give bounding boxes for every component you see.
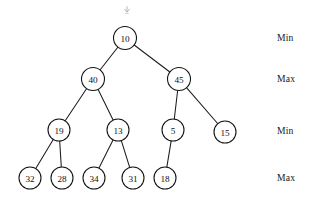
node-label: 31: [128, 174, 138, 184]
level-label-lvl0: Min: [277, 32, 294, 43]
tree-edge: [167, 140, 172, 167]
tree-edge: [174, 90, 177, 119]
tree-node[interactable]: 10: [114, 27, 137, 50]
tree-edge: [121, 140, 130, 168]
tree-edge: [99, 139, 114, 168]
tree-edge: [134, 45, 170, 73]
tree-edge: [65, 88, 87, 121]
tree-edge: [186, 87, 218, 124]
node-label: 5: [171, 126, 176, 136]
tree-node[interactable]: 40: [82, 68, 105, 91]
tree-node[interactable]: 13: [107, 119, 129, 141]
tree-edge: [60, 141, 62, 168]
tree-node[interactable]: 15: [214, 121, 236, 143]
tree-node[interactable]: 18: [154, 167, 176, 189]
tree-edge: [98, 89, 113, 121]
node-label: 18: [160, 174, 170, 184]
tree-edge: [35, 139, 53, 169]
level-label-lvl3: Max: [277, 172, 295, 183]
tree-node[interactable]: 5: [162, 119, 184, 141]
node-label: 19: [54, 126, 64, 136]
tree-edge: [100, 47, 118, 71]
tree-node[interactable]: 34: [83, 167, 105, 189]
node-label: 45: [174, 75, 184, 85]
node-label: 15: [220, 128, 230, 138]
node-label: 10: [120, 34, 130, 44]
node-label: 32: [25, 174, 35, 184]
tree-node[interactable]: 31: [122, 167, 144, 189]
node-label: 34: [89, 174, 99, 184]
tree-node[interactable]: 19: [48, 119, 70, 141]
node-label: 13: [113, 126, 123, 136]
tree-node[interactable]: 28: [51, 167, 73, 189]
tree-node[interactable]: 32: [19, 167, 41, 189]
node-label: 28: [57, 174, 67, 184]
diagram-canvas: 10404519135153228343118 MinMaxMinMax: [0, 0, 314, 206]
node-label: 40: [88, 75, 98, 85]
level-label-lvl2: Min: [277, 125, 294, 136]
level-label-lvl1: Max: [277, 73, 295, 84]
tree-graphic: 10404519135153228343118: [0, 0, 314, 206]
tree-node[interactable]: 45: [168, 68, 191, 91]
edges-group: [35, 45, 218, 169]
